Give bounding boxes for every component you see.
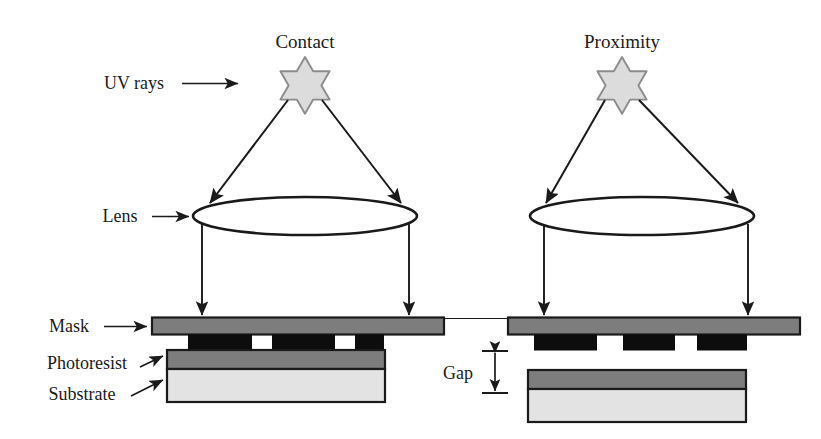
diagram-canvas: Contact Proximity UV rays xyxy=(0,0,821,439)
gap-label: Gap xyxy=(443,363,473,383)
lens-label: Lens xyxy=(103,206,138,226)
photoresist-label: Photoresist xyxy=(47,353,127,373)
lens-contact xyxy=(193,197,417,235)
photoresist-layer-contact xyxy=(167,350,385,369)
mask-plate-proximity xyxy=(508,318,800,335)
photoresist-layer-proximity xyxy=(528,370,746,389)
substrate-layer-contact xyxy=(167,369,385,402)
substrate-label: Substrate xyxy=(49,384,116,404)
panel-title-proximity: Proximity xyxy=(584,31,661,52)
panel-title-contact: Contact xyxy=(275,31,335,52)
photolithography-diagram: Contact Proximity UV rays xyxy=(0,0,821,439)
mask-pattern-proximity xyxy=(534,335,747,351)
mask-label: Mask xyxy=(49,316,89,336)
mask-plate-contact xyxy=(152,318,444,335)
uv-rays-label: UV rays xyxy=(104,73,164,93)
substrate-layer-proximity xyxy=(528,389,746,422)
lens-proximity xyxy=(530,197,754,235)
